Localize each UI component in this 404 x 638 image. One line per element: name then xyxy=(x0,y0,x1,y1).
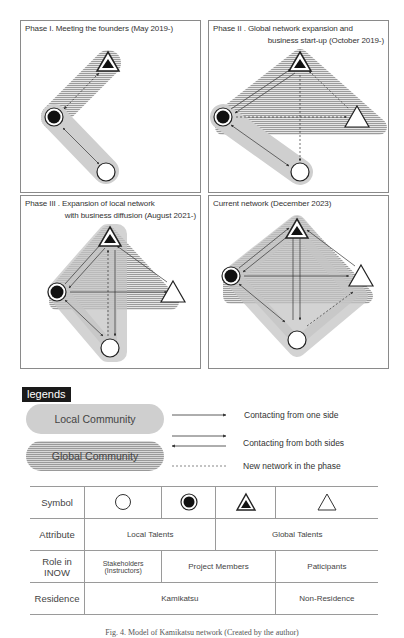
role-project-members: Project Members xyxy=(162,551,275,583)
table-row-role: Role inINOW Stakeholders(Instructors) Pr… xyxy=(30,551,378,583)
panel-phase1: Phase I. Meeting the founders (May 2019-… xyxy=(20,20,201,193)
row-header: Attribute xyxy=(30,519,85,551)
open-circle-icon xyxy=(101,339,119,357)
attribute-local: Local Talents xyxy=(85,519,216,551)
table-row-residence: Residence Kamikatsu Non-Residence xyxy=(30,583,378,615)
open-circle-icon xyxy=(291,163,309,181)
open-triangle-icon xyxy=(316,492,338,512)
open-circle-icon xyxy=(113,492,133,512)
filled-triangle-icon xyxy=(235,492,257,512)
filled-circle-icon xyxy=(214,108,232,126)
symbol-table: Symbol Attribute Local Talents Global Ta… xyxy=(30,486,378,615)
filled-circle-icon xyxy=(179,492,199,512)
table-row-attribute: Attribute Local Talents Global Talents xyxy=(30,519,378,551)
row-header: Role inINOW xyxy=(30,551,85,583)
panel-current: Current network (December 2023) xyxy=(208,195,389,369)
role-stakeholders: Stakeholders(Instructors) xyxy=(85,551,162,583)
panel-phase2: Phase II . Global network expansion and … xyxy=(208,20,389,193)
network-diagram xyxy=(21,21,202,194)
role-participants: Paticipants xyxy=(275,551,378,583)
network-diagram xyxy=(21,196,202,370)
open-circle-icon xyxy=(288,331,306,349)
legend-new-network: New network in the phase xyxy=(243,461,341,471)
network-diagram xyxy=(209,21,390,194)
row-header: Symbol xyxy=(30,487,85,519)
filled-circle-icon xyxy=(48,283,66,301)
network-diagram xyxy=(209,196,390,370)
legend-one-side: Contacting from one side xyxy=(244,410,339,420)
residence-kamikatsu: Kamikatsu xyxy=(85,583,276,615)
legend-both-sides: Contacting from both sides xyxy=(243,438,344,448)
filled-circle-icon xyxy=(222,267,240,285)
row-header: Residence xyxy=(30,583,85,615)
attribute-global: Global Talents xyxy=(216,519,378,551)
filled-circle-icon xyxy=(45,108,63,126)
residence-non-residence: Non-Residence xyxy=(275,583,378,615)
panel-phase3: Phase III . Expansion of local network w… xyxy=(20,195,201,369)
figure-caption: Fig. 4. Model of Kamikatsu network (Crea… xyxy=(0,628,404,637)
open-circle-icon xyxy=(97,163,115,181)
table-row-symbol: Symbol xyxy=(30,487,378,519)
